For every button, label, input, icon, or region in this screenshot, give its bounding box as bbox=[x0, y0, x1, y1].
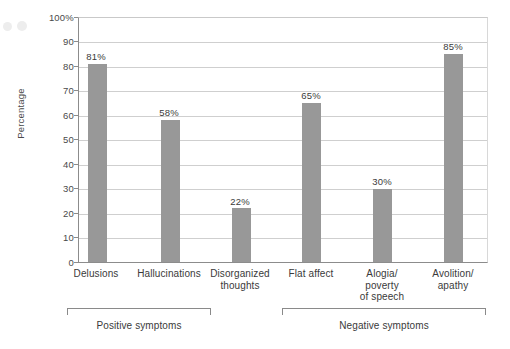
gridline-40 bbox=[79, 165, 487, 166]
gridline-30 bbox=[79, 189, 487, 190]
bar-chart: Percentage 100% 90 80 70 60 50 40 30 20 … bbox=[0, 0, 510, 349]
y-tick-label-40: 40 bbox=[34, 159, 74, 170]
y-tick-label-80: 80 bbox=[34, 61, 74, 72]
bar-flat-affect bbox=[302, 103, 321, 262]
x-label-avolition: Avolition/ apathy bbox=[410, 268, 496, 291]
gridline-80 bbox=[79, 67, 487, 68]
bar-value-delusions: 81% bbox=[71, 51, 121, 62]
bar-avolition bbox=[444, 54, 463, 262]
group-label-negative: Negative symptoms bbox=[282, 320, 486, 331]
bar-delusions bbox=[88, 64, 107, 263]
plot-area bbox=[78, 17, 488, 263]
x-label-line: of speech bbox=[339, 291, 425, 303]
bar-alogia bbox=[373, 189, 392, 263]
bar-value-flat-affect: 65% bbox=[286, 90, 336, 101]
y-axis-title: Percentage bbox=[15, 64, 26, 164]
group-bracket-positive bbox=[67, 308, 211, 315]
scan-smudge bbox=[3, 22, 12, 31]
gridline-20 bbox=[79, 214, 487, 215]
gridline-90 bbox=[79, 42, 487, 43]
y-tick-label-30: 30 bbox=[34, 183, 74, 194]
y-tick-label-10: 10 bbox=[34, 232, 74, 243]
bar-value-alogia: 30% bbox=[357, 176, 407, 187]
gridline-70 bbox=[79, 91, 487, 92]
y-tick-label-100: 100% bbox=[34, 12, 74, 23]
bar-value-disorganized-thoughts: 22% bbox=[215, 196, 265, 207]
bar-value-avolition: 85% bbox=[428, 41, 478, 52]
x-label-line: thoughts bbox=[197, 280, 283, 292]
y-tick-label-90: 90 bbox=[34, 36, 74, 47]
x-label-line: apathy bbox=[410, 280, 496, 292]
y-tick-label-50: 50 bbox=[34, 134, 74, 145]
y-tick-label-0: 0 bbox=[34, 257, 74, 268]
bar-hallucinations bbox=[161, 120, 180, 262]
bar-value-hallucinations: 58% bbox=[144, 107, 194, 118]
y-tick-label-70: 70 bbox=[34, 85, 74, 96]
group-label-positive: Positive symptoms bbox=[67, 320, 211, 331]
group-bracket-negative bbox=[282, 308, 486, 315]
x-label-line: Avolition/ bbox=[410, 268, 496, 280]
y-tick-label-20: 20 bbox=[34, 208, 74, 219]
scan-smudge bbox=[17, 21, 27, 31]
bar-disorganized-thoughts bbox=[232, 208, 251, 262]
gridline-10 bbox=[79, 238, 487, 239]
y-tick-label-60: 60 bbox=[34, 110, 74, 121]
gridline-60 bbox=[79, 116, 487, 117]
gridline-50 bbox=[79, 140, 487, 141]
